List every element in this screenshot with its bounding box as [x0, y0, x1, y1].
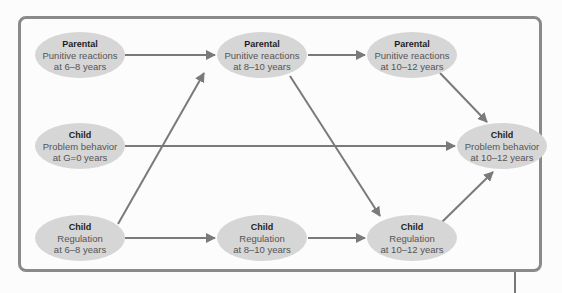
node-title: Parental	[244, 39, 280, 50]
node-label: Regulation	[389, 233, 434, 244]
node-label: Punitive reactions	[375, 50, 450, 61]
node-label: Punitive reactions	[225, 50, 300, 61]
node-age: at 8–10 years	[233, 61, 291, 72]
edge-parental1012-to-problem1012	[440, 73, 487, 122]
node-label: Problem behavior	[465, 141, 539, 152]
node-child-problem-10-12: Child Problem behavior at 10–12 years	[457, 123, 547, 169]
node-child-reg-10-12: Child Regulation at 10–12 years	[367, 215, 457, 261]
node-title: Child	[401, 222, 424, 233]
node-label: Regulation	[57, 233, 102, 244]
node-label: Regulation	[239, 233, 284, 244]
node-title: Parental	[394, 39, 430, 50]
node-age: at 8–10 years	[233, 244, 291, 255]
node-age: at 10–12 years	[381, 244, 444, 255]
edge-reg1012-to-problem1012	[442, 172, 493, 222]
node-parental-10-12: Parental Punitive reactions at 10–12 yea…	[367, 32, 457, 78]
node-age: at 6–8 years	[54, 244, 106, 255]
node-child-problem-0: Child Problem behavior at G=0 years	[35, 123, 125, 169]
node-label: Problem behavior	[43, 141, 117, 152]
node-title: Child	[491, 130, 514, 141]
node-age: at G=0 years	[53, 152, 108, 163]
node-age: at 10–12 years	[381, 61, 444, 72]
node-parental-6-8: Parental Punitive reactions at 6–8 years	[35, 32, 125, 78]
edge-reg68-to-parental810	[118, 73, 204, 224]
node-title: Child	[69, 130, 92, 141]
node-title: Parental	[62, 39, 98, 50]
node-child-reg-6-8: Child Regulation at 6–8 years	[35, 215, 125, 261]
node-age: at 10–12 years	[471, 152, 534, 163]
node-parental-8-10: Parental Punitive reactions at 8–10 year…	[217, 32, 307, 78]
node-child-reg-8-10: Child Regulation at 8–10 years	[217, 215, 307, 261]
node-title: Child	[69, 222, 92, 233]
node-label: Punitive reactions	[43, 50, 118, 61]
node-age: at 6–8 years	[54, 61, 106, 72]
node-title: Child	[251, 222, 274, 233]
